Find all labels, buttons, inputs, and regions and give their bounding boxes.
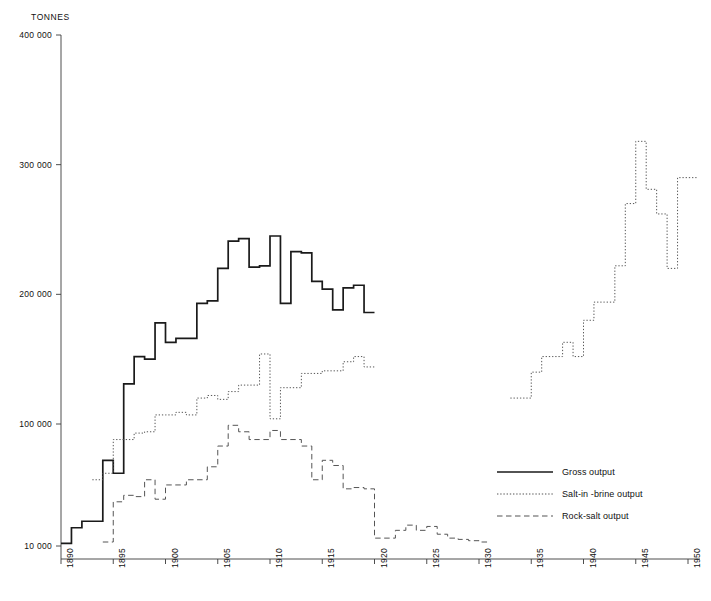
legend-item-salt-in-brine-output: Salt-in -brine output [497, 483, 697, 505]
series-line-gross-output [61, 236, 375, 543]
series-line-rock-salt-output [103, 425, 490, 542]
x-axis-tick-label: 1895 [117, 548, 127, 568]
chart-figure: TONNES 10 000100 000200 000300 000400 00… [0, 0, 711, 601]
x-axis-tick-label: 1915 [326, 548, 336, 568]
legend-swatch-dotted-icon [497, 489, 553, 499]
legend-label-rock-salt-output: Rock-salt output [562, 511, 629, 521]
y-axis-tick-label: 400 000 [0, 30, 52, 40]
legend-label-salt-in-brine-output: Salt-in -brine output [562, 489, 643, 499]
x-axis-tick-label: 1890 [65, 548, 75, 568]
x-axis-tick-label: 1920 [379, 548, 389, 568]
legend-item-rock-salt-output: Rock-salt output [497, 505, 697, 527]
x-axis-tick-label: 1930 [483, 548, 493, 568]
x-axis-tick-label: 1925 [431, 548, 441, 568]
x-axis-tick-label: 1940 [588, 548, 598, 568]
y-axis-tick-label: 300 000 [0, 160, 52, 170]
x-axis-tick-label: 1950 [692, 548, 702, 568]
x-axis-tick-label: 1945 [640, 548, 650, 568]
y-axis-tick-label: 100 000 [0, 419, 52, 429]
legend-swatch-dashed-icon [497, 511, 553, 521]
x-axis-tick-label: 1935 [535, 548, 545, 568]
y-axis-tick-label: 10 000 [0, 541, 52, 551]
chart-legend: Gross output Salt-in -brine output Rock-… [497, 461, 697, 527]
legend-item-gross-output: Gross output [497, 461, 697, 483]
x-axis-tick-label: 1910 [274, 548, 284, 568]
series-line-salt-in-brine-output [510, 141, 698, 398]
legend-swatch-solid-icon [497, 467, 553, 477]
legend-label-gross-output: Gross output [562, 467, 615, 477]
x-axis-tick-label: 1900 [170, 548, 180, 568]
y-axis-unit-label: TONNES [31, 12, 70, 22]
y-axis-tick-label: 200 000 [0, 289, 52, 299]
x-axis-tick-label: 1905 [222, 548, 232, 568]
